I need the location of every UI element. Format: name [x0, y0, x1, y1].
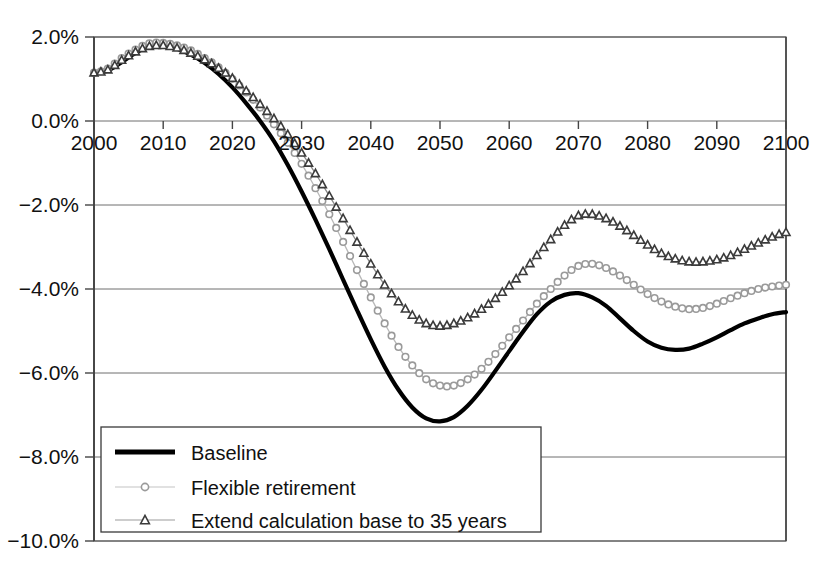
data-point-marker	[326, 211, 333, 218]
data-point-marker	[700, 305, 707, 312]
x-axis-tick-label: 2000	[71, 131, 118, 154]
data-point-marker	[554, 279, 561, 286]
x-axis-tick-label: 2030	[278, 131, 325, 154]
data-point-marker	[506, 334, 513, 341]
data-point-marker	[423, 376, 430, 383]
data-point-marker	[644, 291, 651, 298]
data-point-marker	[616, 222, 624, 229]
data-point-marker	[775, 230, 783, 237]
x-axis-tick-label: 2100	[763, 131, 810, 154]
x-axis-tick-label: 2080	[624, 131, 671, 154]
data-point-marker	[568, 267, 575, 274]
data-point-marker	[464, 376, 471, 383]
data-point-marker	[671, 255, 679, 262]
data-point-marker	[651, 245, 659, 252]
data-point-marker	[305, 172, 312, 179]
data-point-marker	[782, 228, 790, 235]
data-point-marker	[451, 382, 458, 389]
data-point-marker	[325, 192, 333, 199]
data-point-marker	[430, 380, 437, 387]
data-point-marker	[457, 380, 464, 387]
data-point-marker	[381, 320, 388, 327]
y-axis-tick-label: −6.0%	[19, 361, 79, 384]
data-point-marker	[367, 260, 375, 267]
data-point-marker	[499, 343, 506, 350]
y-axis-tick-label: −10.0%	[7, 529, 79, 552]
x-axis-tick-label: 2060	[486, 131, 533, 154]
series-line	[94, 45, 786, 326]
series-line	[94, 43, 786, 387]
x-axis-tick-label: 2070	[555, 131, 602, 154]
y-axis-tick-label: 0.0%	[31, 109, 79, 132]
data-point-marker	[311, 169, 319, 176]
data-point-marker	[651, 295, 658, 302]
data-point-marker	[664, 252, 672, 259]
data-point-marker	[602, 214, 610, 221]
legend: BaselineFlexible retirementExtend calcul…	[101, 427, 541, 532]
data-point-marker	[755, 286, 762, 293]
data-point-marker	[609, 218, 617, 225]
data-point-marker	[429, 321, 437, 328]
legend-swatch-circle-marker	[141, 483, 148, 490]
data-point-marker	[534, 300, 541, 307]
data-point-marker	[340, 239, 347, 246]
x-axis-tick-label: 2010	[140, 131, 187, 154]
data-point-marker	[678, 256, 686, 263]
data-point-marker	[374, 270, 382, 277]
data-point-marker	[693, 306, 700, 313]
data-point-marker	[416, 370, 423, 377]
data-point-marker	[595, 212, 603, 219]
data-point-marker	[374, 307, 381, 314]
series-flexible-retirement	[91, 39, 790, 389]
data-point-marker	[596, 262, 603, 269]
data-point-marker	[368, 294, 375, 301]
series-group	[90, 39, 790, 421]
data-point-marker	[637, 286, 644, 293]
data-point-marker	[672, 303, 679, 310]
data-point-marker	[527, 309, 534, 316]
x-axis-tick-label: 2050	[417, 131, 464, 154]
data-point-marker	[644, 241, 652, 248]
y-axis-tick-label: −8.0%	[19, 445, 79, 468]
data-point-marker	[624, 277, 631, 284]
data-point-marker	[547, 286, 554, 293]
data-point-marker	[734, 292, 741, 299]
y-axis-tick-label: −2.0%	[19, 193, 79, 216]
data-point-marker	[485, 359, 492, 366]
data-point-marker	[748, 288, 755, 295]
data-point-marker	[353, 238, 361, 245]
data-point-marker	[471, 309, 479, 316]
data-point-marker	[492, 351, 499, 358]
data-point-marker	[478, 366, 485, 373]
data-point-marker	[707, 303, 714, 310]
data-point-marker	[762, 284, 769, 291]
data-point-marker	[617, 272, 624, 279]
data-point-marker	[741, 290, 748, 297]
data-point-marker	[409, 362, 416, 369]
data-point-marker	[561, 272, 568, 279]
data-point-marker	[444, 383, 451, 390]
y-axis-tick-label: 2.0%	[31, 25, 79, 48]
series-extend-calculation-base-to-35-years	[90, 41, 790, 329]
data-point-marker	[714, 300, 721, 307]
data-point-marker	[665, 301, 672, 308]
data-point-marker	[333, 225, 340, 232]
legend-item-label: Extend calculation base to 35 years	[191, 510, 507, 532]
data-point-marker	[679, 305, 686, 312]
x-axis-tick-label: 2020	[209, 131, 256, 154]
data-point-marker	[361, 281, 368, 288]
data-point-marker	[332, 203, 340, 210]
series-baseline	[94, 45, 786, 421]
data-point-marker	[776, 282, 783, 289]
data-point-marker	[727, 295, 734, 302]
data-point-marker	[339, 214, 347, 221]
data-point-marker	[354, 267, 361, 274]
data-point-marker	[589, 261, 596, 268]
data-point-marker	[769, 283, 776, 290]
data-point-marker	[783, 282, 790, 289]
data-point-marker	[603, 265, 610, 272]
line-chart: 2.0%0.0%−2.0%−4.0%−6.0%−8.0%−10.0%200020…	[0, 0, 827, 563]
data-point-marker	[360, 249, 368, 256]
x-axis-tick-label: 2040	[347, 131, 394, 154]
series-line	[94, 45, 786, 421]
